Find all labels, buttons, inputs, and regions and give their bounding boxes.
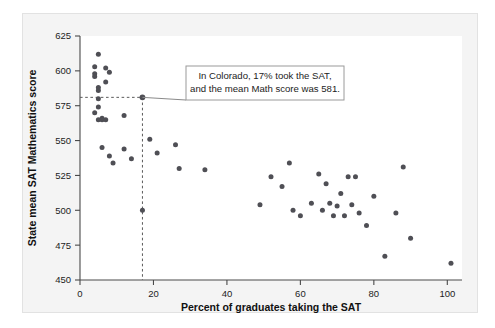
x-tick-label: 100 <box>439 288 455 299</box>
data-point <box>96 88 101 93</box>
data-point <box>324 181 329 186</box>
data-point <box>173 142 178 147</box>
data-point <box>103 80 108 85</box>
data-point <box>269 174 274 179</box>
data-point <box>287 160 292 165</box>
data-point <box>257 202 262 207</box>
scatter-plot-figure: 450475500525550575600625 020406080100 In… <box>0 0 495 328</box>
y-tick-label: 525 <box>55 170 71 181</box>
x-axis-title: Percent of graduates taking the SAT <box>181 301 362 313</box>
data-point <box>96 96 101 101</box>
x-tick-label: 60 <box>295 288 306 299</box>
data-point <box>202 167 207 172</box>
data-point <box>298 213 303 218</box>
data-point <box>92 74 97 79</box>
data-point <box>103 66 108 71</box>
callout-text-line-2: and the mean Math score was 581. <box>190 83 340 94</box>
data-point <box>107 153 112 158</box>
data-point <box>111 160 116 165</box>
data-point <box>448 261 453 266</box>
y-tick-label: 575 <box>55 100 71 111</box>
data-point <box>280 184 285 189</box>
data-point <box>327 201 332 206</box>
x-tick-label: 0 <box>77 288 82 299</box>
y-tick-label: 475 <box>55 240 71 251</box>
data-point <box>177 166 182 171</box>
data-point <box>96 105 101 110</box>
y-tick-label: 550 <box>55 135 71 146</box>
x-tick-label: 20 <box>148 288 159 299</box>
data-point <box>393 211 398 216</box>
data-point <box>371 194 376 199</box>
data-point <box>155 151 160 156</box>
data-point <box>335 204 340 209</box>
x-tick-label: 80 <box>369 288 380 299</box>
y-tick-label: 625 <box>55 30 71 41</box>
data-point <box>346 174 351 179</box>
data-point <box>309 201 314 206</box>
data-point <box>92 110 97 115</box>
data-point <box>122 146 127 151</box>
data-point <box>342 213 347 218</box>
data-point <box>122 113 127 118</box>
data-point <box>357 211 362 216</box>
data-point <box>140 208 145 213</box>
callout-text-line-1: In Colorado, 17% took the SAT, <box>198 70 331 81</box>
x-axis-ticks: 020406080100 <box>77 280 455 299</box>
data-point <box>129 156 134 161</box>
data-point <box>320 208 325 213</box>
data-point <box>331 213 336 218</box>
data-point <box>107 70 112 75</box>
y-axis-title: State mean SAT Mathematics score <box>26 70 38 247</box>
scatter-chart-svg: 450475500525550575600625 020406080100 In… <box>0 0 495 328</box>
data-point <box>316 172 321 177</box>
y-tick-label: 600 <box>55 65 71 76</box>
data-point <box>382 254 387 259</box>
data-point <box>147 137 152 142</box>
data-point <box>338 191 343 196</box>
x-tick-label: 40 <box>222 288 233 299</box>
y-tick-label: 500 <box>55 205 71 216</box>
y-axis-ticks: 450475500525550575600625 <box>55 30 80 285</box>
data-point <box>349 202 354 207</box>
data-point <box>100 145 105 150</box>
data-point <box>408 236 413 241</box>
data-point <box>96 52 101 57</box>
data-point <box>291 208 296 213</box>
data-point <box>401 165 406 170</box>
y-tick-label: 450 <box>55 274 71 285</box>
data-point <box>353 174 358 179</box>
data-point <box>364 223 369 228</box>
plot-area-wrapper: 450475500525550575600625 020406080100 In… <box>0 0 495 328</box>
data-point <box>103 117 108 122</box>
data-point <box>92 64 97 69</box>
